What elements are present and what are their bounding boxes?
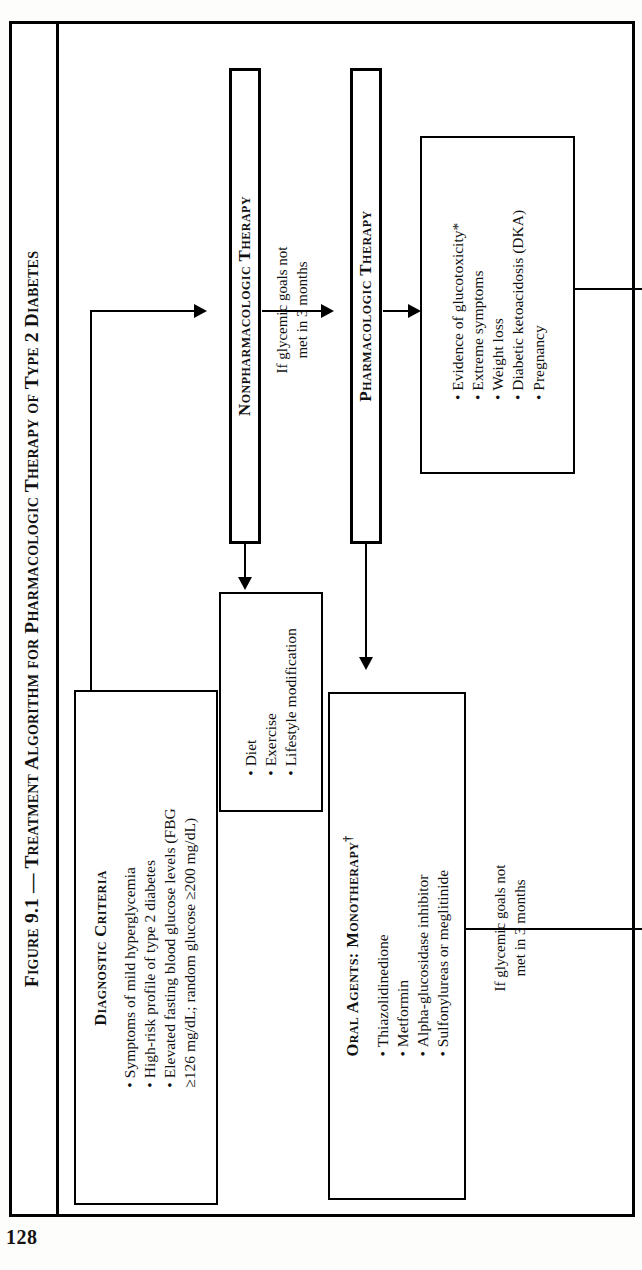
page-number: 128 bbox=[6, 1226, 38, 1249]
connector-nonpharm-to-lifestyle bbox=[244, 544, 246, 578]
list-item: Weight loss bbox=[487, 210, 507, 400]
diagnostic-criteria-content: Diagnostic Criteria Symptoms of mild hyp… bbox=[91, 808, 201, 1087]
pharmacologic-therapy-label: Pharmacologic Therapy bbox=[356, 210, 376, 402]
connector-diagnostic-horizontal bbox=[90, 310, 195, 312]
node-pharmacologic-therapy: Pharmacologic Therapy bbox=[350, 68, 382, 544]
list-item: Diabetic ketoacidosis (DKA) bbox=[508, 210, 528, 400]
node-lifestyle-measures: Diet Exercise Lifestyle modification bbox=[219, 592, 323, 812]
list-item: Sulfonylureas or meglitinide bbox=[433, 835, 453, 1056]
connector-label-glycemic-upper-lines: If glycemic goals not met in 3 months bbox=[272, 246, 313, 373]
node-insulin-indications: Evidence of glucotoxicity* Extreme sympt… bbox=[420, 136, 575, 474]
oral-agents-header-text: Oral Agents: Monotherapy bbox=[343, 842, 362, 1057]
list-item: Pregnancy bbox=[528, 210, 548, 400]
list-item: Extreme symptoms bbox=[467, 210, 487, 400]
lifestyle-content: Diet Exercise Lifestyle modification bbox=[241, 628, 301, 776]
connector-pharm-to-oral-agents bbox=[365, 544, 367, 658]
scanned-book-page: Figure 9.1 — Treatment Algorithm for Pha… bbox=[0, 0, 642, 1270]
connector-indications-to-insulin bbox=[575, 288, 642, 290]
list-item: Alpha-glucosidase inhibitor bbox=[413, 835, 433, 1056]
connector-label-glycemic-upper: If glycemic goals not met in 3 months bbox=[252, 250, 332, 370]
indications-content: Evidence of glucotoxicity* Extreme sympt… bbox=[447, 210, 548, 400]
node-oral-agents-monotherapy: Oral Agents: Monotherapy† Thiazolidinedi… bbox=[328, 692, 466, 1200]
oral-agents-header: Oral Agents: Monotherapy† bbox=[341, 835, 364, 1056]
oral-agents-bullets: Thiazolidinedione Metformin Alpha-glucos… bbox=[372, 835, 453, 1056]
node-diagnostic-criteria: Diagnostic Criteria Symptoms of mild hyp… bbox=[74, 690, 218, 1205]
oral-agents-header-marker: † bbox=[341, 835, 355, 841]
figure-title: Figure 9.1 — Treatment Algorithm for Pha… bbox=[22, 251, 44, 987]
list-item: Lifestyle modification bbox=[281, 628, 301, 776]
indications-bullets: Evidence of glucotoxicity* Extreme sympt… bbox=[447, 210, 548, 400]
connector-label-glycemic-lower: If glycemic goals not met in 3 months bbox=[470, 868, 550, 988]
connector-pharm-to-indications bbox=[383, 310, 409, 312]
connector-label-glycemic-lower-lines: If glycemic goals not met in 3 months bbox=[490, 864, 531, 991]
arrowhead-to-indications bbox=[408, 304, 421, 318]
connector-diagnostic-vertical bbox=[90, 310, 92, 691]
oral-agents-content: Oral Agents: Monotherapy† Thiazolidinedi… bbox=[341, 835, 453, 1056]
list-item: Diet bbox=[241, 628, 261, 776]
list-item: Exercise bbox=[261, 628, 281, 776]
list-item: Elevated fasting blood glucose levels (F… bbox=[161, 808, 181, 1087]
diagnostic-criteria-bullets: Symptoms of mild hyperglycemia High-risk… bbox=[120, 808, 201, 1087]
lifestyle-bullets: Diet Exercise Lifestyle modification bbox=[241, 628, 301, 776]
diagnostic-criteria-header: Diagnostic Criteria bbox=[91, 808, 111, 1087]
arrowhead-to-lifestyle bbox=[238, 577, 252, 590]
list-item: Metformin bbox=[393, 835, 413, 1056]
connector-label-line-1: If glycemic goals not bbox=[490, 864, 510, 991]
arrowhead-to-nonpharmacologic bbox=[194, 304, 207, 318]
connector-label-line-2: met in 3 months bbox=[292, 246, 312, 373]
list-item: Evidence of glucotoxicity* bbox=[447, 210, 467, 400]
list-item: Thiazolidinedione bbox=[372, 835, 392, 1056]
connector-label-line-2: met in 3 months bbox=[510, 864, 530, 991]
list-item: Symptoms of mild hyperglycemia bbox=[120, 808, 140, 1087]
list-item-continuation: ≥126 mg/dL; random glucose ≥200 mg/dL) bbox=[181, 808, 201, 1087]
connector-label-line-1: If glycemic goals not bbox=[272, 246, 292, 373]
arrowhead-to-oral-agents bbox=[359, 657, 373, 670]
list-item: High-risk profile of type 2 diabetes bbox=[140, 808, 160, 1087]
figure-title-bar: Figure 9.1 — Treatment Algorithm for Pha… bbox=[9, 21, 59, 1217]
